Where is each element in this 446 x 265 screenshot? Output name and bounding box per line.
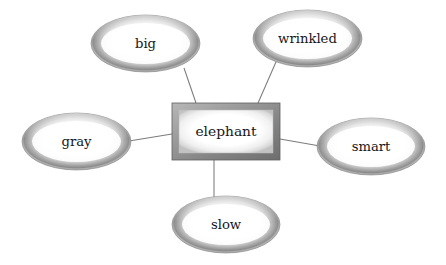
- node-label-gray: gray: [61, 134, 92, 149]
- node-label-wrinkled: wrinkled: [278, 31, 337, 46]
- connector-center-to-smart: [280, 139, 320, 146]
- node-wrinkled[interactable]: wrinkled: [253, 10, 362, 67]
- center-node-label: elephant: [195, 123, 257, 139]
- node-gray[interactable]: gray: [22, 113, 131, 170]
- node-label-smart: smart: [352, 139, 391, 154]
- node-big[interactable]: big: [91, 15, 200, 72]
- connector-center-to-big: [184, 68, 196, 103]
- diagram-canvas: bigwrinkledgraysmartslow elephant: [0, 0, 446, 265]
- node-label-big: big: [135, 36, 157, 51]
- connector-center-to-wrinkled: [258, 62, 276, 103]
- connector-center-to-gray: [129, 134, 172, 141]
- node-smart[interactable]: smart: [317, 118, 425, 175]
- word-web-diagram: bigwrinkledgraysmartslow elephant: [0, 0, 446, 265]
- center-node-elephant[interactable]: elephant: [172, 103, 280, 160]
- center-node-group: elephant: [172, 103, 280, 160]
- node-label-slow: slow: [211, 217, 242, 232]
- node-slow[interactable]: slow: [172, 196, 280, 253]
